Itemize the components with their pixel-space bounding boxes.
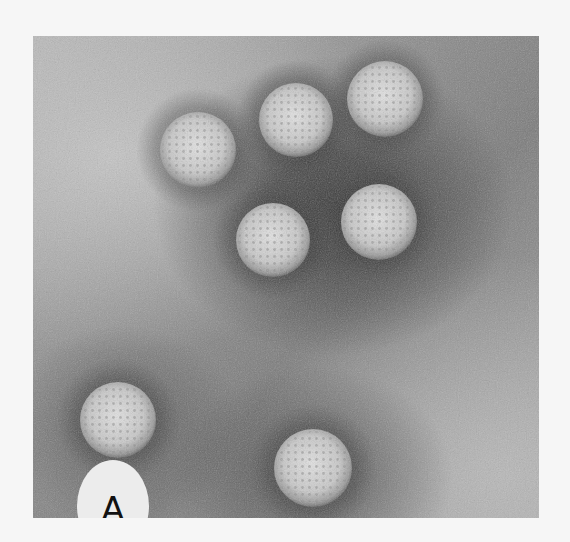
film-grain xyxy=(33,36,539,518)
virus-particles xyxy=(33,36,539,518)
electron-micrograph: A xyxy=(33,36,539,518)
panel-label: A xyxy=(101,489,124,518)
figure-panel: A xyxy=(0,0,570,542)
